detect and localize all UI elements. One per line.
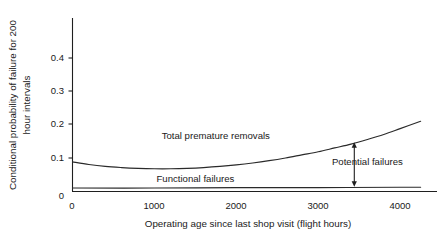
annotation-potential-failures: Potential failures — [332, 142, 403, 187]
x-axis-title: Operating age since last shop visit (fli… — [145, 218, 351, 229]
annotation-label-potential-failures: Potential failures — [332, 156, 403, 167]
y-tick-label-0.2: 0.2 — [51, 118, 64, 129]
y-axis-title-line1: Conditional probability of failure for 2… — [7, 19, 18, 189]
y-tick-label-0.3: 0.3 — [51, 85, 64, 96]
x-tick-label-2000: 2000 — [225, 200, 246, 211]
x-tick-label-1000: 1000 — [143, 200, 164, 211]
arrowhead-down-icon — [352, 181, 357, 187]
y-tick-label-0: 0 — [59, 190, 64, 201]
conditional-probability-chart: Conditional probability of failure for 2… — [0, 0, 445, 242]
series-label-total-premature-removals: Total premature removals — [162, 130, 270, 141]
y-axis-title-line2: hour intervals — [21, 75, 32, 134]
y-tick-label-0.4: 0.4 — [51, 52, 64, 63]
y-axis-title: Conditional probability of failure for 2… — [7, 19, 32, 189]
x-axis-tick-labels: 0 1000 2000 3000 4000 — [69, 200, 410, 211]
y-axis-tick-labels: 0.4 0.3 0.2 0.1 0 — [51, 52, 64, 201]
series-functional-failures-line — [73, 187, 421, 188]
series-label-functional-failures: Functional failures — [156, 173, 234, 184]
y-axis-ticks — [69, 58, 73, 158]
x-tick-label-4000: 4000 — [389, 200, 410, 211]
y-tick-label-0.1: 0.1 — [51, 152, 64, 163]
x-tick-label-3000: 3000 — [307, 200, 328, 211]
chart-figure: Conditional probability of failure for 2… — [0, 0, 445, 242]
x-tick-label-0: 0 — [69, 200, 74, 211]
